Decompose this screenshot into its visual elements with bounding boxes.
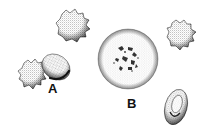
label-b: B — [127, 96, 136, 111]
label-a: A — [48, 81, 58, 96]
crenated-cell-right — [167, 20, 196, 50]
biconcave-cell-bottom-right — [161, 87, 192, 127]
blood-cell-illustration: A B — [0, 0, 207, 135]
large-cell-b — [98, 29, 158, 89]
crenated-cell-top — [56, 9, 90, 42]
